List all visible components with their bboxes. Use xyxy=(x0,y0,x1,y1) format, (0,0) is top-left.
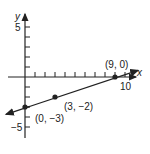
point-label-9-0: (9, 0) xyxy=(105,59,128,70)
tick-label-neg5: −5 xyxy=(11,122,23,133)
point-9-0 xyxy=(112,74,117,79)
x-ticks xyxy=(35,72,125,77)
x-axis-label: x xyxy=(136,67,143,78)
point-label-0-neg3: (0, −3) xyxy=(35,113,64,124)
y-axis-label: y xyxy=(14,11,21,22)
tick-label-10: 10 xyxy=(120,81,132,92)
point-label-3-neg2: (3, −2) xyxy=(64,101,93,112)
tick-label-5: 5 xyxy=(15,22,21,33)
point-3-neg2 xyxy=(52,94,57,99)
graph-canvas: y x 5 −5 10 (0, −3) (3, −2) (9, 0) xyxy=(0,0,150,154)
point-0-neg3 xyxy=(22,104,27,109)
